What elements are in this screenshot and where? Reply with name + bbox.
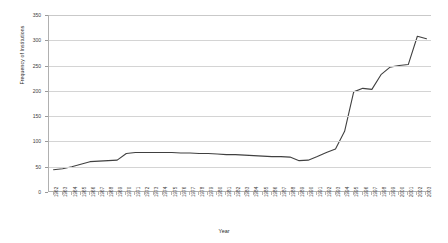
series-polyline xyxy=(54,36,427,170)
x-tick-label: 1987 xyxy=(282,187,287,197)
x-tick-label: 1997 xyxy=(373,187,378,197)
gridline xyxy=(49,40,431,41)
x-tick-label: 2000 xyxy=(400,187,405,197)
x-tick-label: 1984 xyxy=(254,187,259,197)
plot-area xyxy=(48,15,430,192)
x-tick-label: 1967 xyxy=(100,187,105,197)
x-tick-label: 1985 xyxy=(264,187,269,197)
y-tick-mark xyxy=(45,91,48,92)
x-tick-label: 1964 xyxy=(73,187,78,197)
gridline xyxy=(49,66,431,67)
x-tick-label: 1966 xyxy=(91,187,96,197)
x-tick-label: 1970 xyxy=(127,187,132,197)
x-tick-label: 1981 xyxy=(227,187,232,197)
x-tick-mark xyxy=(371,192,372,195)
y-tick-mark xyxy=(45,116,48,117)
gridline xyxy=(49,116,431,117)
x-tick-label: 1996 xyxy=(364,187,369,197)
x-tick-mark xyxy=(189,192,190,195)
x-tick-label: 1986 xyxy=(273,187,278,197)
x-tick-label: 1963 xyxy=(63,187,68,197)
x-tick-label: 1969 xyxy=(118,187,123,197)
y-tick-mark xyxy=(45,15,48,16)
y-tick-mark xyxy=(45,66,48,67)
x-tick-label: 1983 xyxy=(245,187,250,197)
x-tick-label: 1989 xyxy=(300,187,305,197)
y-tick-mark xyxy=(45,192,48,193)
x-tick-label: 1968 xyxy=(109,187,114,197)
y-tick-mark xyxy=(45,141,48,142)
y-tick-label: 100 xyxy=(19,138,41,144)
gridline xyxy=(49,91,431,92)
x-tick-label: 1995 xyxy=(354,187,359,197)
x-tick-mark xyxy=(107,192,108,195)
x-tick-label: 1988 xyxy=(291,187,296,197)
x-tick-label: 1998 xyxy=(382,187,387,197)
x-tick-label: 1977 xyxy=(191,187,196,197)
x-tick-label: 1978 xyxy=(200,187,205,197)
x-tick-label: 1975 xyxy=(173,187,178,197)
x-tick-mark xyxy=(207,192,208,195)
gridline xyxy=(49,141,431,142)
x-tick-mark xyxy=(180,192,181,195)
y-tick-mark xyxy=(45,167,48,168)
x-tick-label: 1962 xyxy=(54,187,59,197)
x-tick-mark xyxy=(389,192,390,195)
x-tick-label: 2003 xyxy=(427,187,432,197)
x-tick-label: 1992 xyxy=(327,187,332,197)
x-tick-mark xyxy=(198,192,199,195)
x-tick-mark xyxy=(380,192,381,195)
y-tick-label: 150 xyxy=(19,113,41,119)
x-tick-label: 1980 xyxy=(218,187,223,197)
x-tick-label: 1993 xyxy=(336,187,341,197)
line-chart: 050100150200250300350 196219631964196519… xyxy=(0,0,448,243)
data-series-line xyxy=(49,15,431,192)
x-tick-label: 1971 xyxy=(136,187,141,197)
x-tick-mark xyxy=(171,192,172,195)
x-tick-mark xyxy=(362,192,363,195)
gridline xyxy=(49,15,431,16)
x-tick-mark xyxy=(398,192,399,195)
x-tick-mark xyxy=(71,192,72,195)
x-tick-mark xyxy=(280,192,281,195)
y-tick-label: 50 xyxy=(19,164,41,170)
x-tick-mark xyxy=(89,192,90,195)
x-tick-label: 1972 xyxy=(145,187,150,197)
x-axis-title: Year xyxy=(0,228,448,234)
x-tick-mark xyxy=(80,192,81,195)
y-tick-mark xyxy=(45,40,48,41)
gridline xyxy=(49,167,431,168)
x-tick-mark xyxy=(289,192,290,195)
x-tick-label: 1965 xyxy=(82,187,87,197)
x-tick-label: 1991 xyxy=(318,187,323,197)
x-tick-mark xyxy=(98,192,99,195)
x-tick-label: 1976 xyxy=(182,187,187,197)
x-tick-label: 1982 xyxy=(236,187,241,197)
x-tick-mark xyxy=(271,192,272,195)
x-tick-label: 1999 xyxy=(391,187,396,197)
x-tick-label: 1994 xyxy=(345,187,350,197)
x-tick-mark xyxy=(298,192,299,195)
x-tick-label: 1990 xyxy=(309,187,314,197)
y-tick-label: 0 xyxy=(19,189,41,195)
x-tick-mark xyxy=(262,192,263,195)
x-tick-label: 1979 xyxy=(209,187,214,197)
x-tick-label: 1974 xyxy=(163,187,168,197)
y-axis-title: Frequency of Institutions xyxy=(19,0,25,111)
x-tick-label: 1973 xyxy=(154,187,159,197)
x-tick-label: 2002 xyxy=(418,187,423,197)
x-tick-label: 2001 xyxy=(409,187,414,197)
